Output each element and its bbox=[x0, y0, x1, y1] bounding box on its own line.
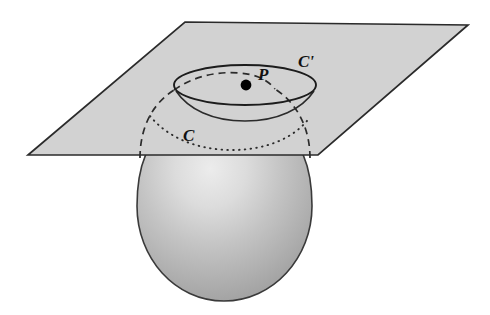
point-p-group bbox=[241, 80, 252, 91]
label-curve-c-prime: C' bbox=[298, 52, 314, 71]
figure-canvas: P C C' bbox=[0, 0, 490, 315]
label-curve-c: C bbox=[183, 126, 195, 145]
geometry-figure: P C C' bbox=[0, 0, 490, 315]
label-point-p: P bbox=[257, 65, 269, 84]
point-p bbox=[241, 80, 252, 91]
